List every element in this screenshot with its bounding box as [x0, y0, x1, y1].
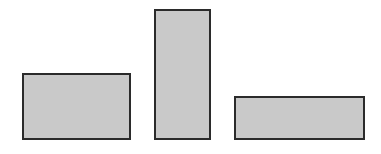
rectangle-right [234, 96, 365, 140]
rectangle-left [22, 73, 131, 140]
rectangle-middle [154, 9, 211, 140]
diagram-canvas [0, 0, 381, 154]
